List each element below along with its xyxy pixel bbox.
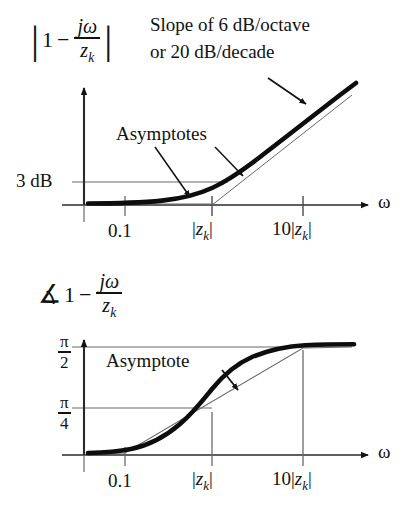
magnitude-fraction-numerator: jω xyxy=(74,16,100,37)
three-db-label: 3 dB xyxy=(16,171,52,190)
phase-ytick-label-pi-over-2: π 2 xyxy=(58,333,71,371)
magnitude-left-bar: | xyxy=(31,22,39,58)
pi-over-2-numerator: π xyxy=(58,333,71,351)
slope-note-leader xyxy=(268,78,306,104)
phase-ytick-label-pi-over-4: π 4 xyxy=(58,394,71,432)
phase-fraction-denominator: zk xyxy=(99,294,119,320)
magnitude-high-asymptote xyxy=(212,95,352,205)
magnitude-xtick-label-1: |zk| xyxy=(192,219,213,243)
pi-over-4-numerator: π xyxy=(58,394,71,412)
phase-y-axis-label: ∡ 1 − jω zk xyxy=(38,271,123,319)
magnitude-y-axis-label: | 1 − jω zk | xyxy=(28,16,115,64)
phase-fraction: jω zk xyxy=(96,271,122,319)
slope-note-line2: or 20 dB/decade xyxy=(150,42,275,61)
asymptotes-leader-left xyxy=(155,147,190,197)
magnitude-right-bar: | xyxy=(104,22,112,58)
magnitude-one: 1 xyxy=(42,29,53,51)
magnitude-fraction: jω zk xyxy=(74,16,100,64)
phase-xtick-label-1: |zk| xyxy=(192,469,213,493)
phase-xtick-label-2: 10|zk| xyxy=(272,469,312,493)
pi-over-4-denominator: 4 xyxy=(58,414,71,432)
figure-line-art xyxy=(0,0,418,526)
magnitude-xtick-label-0: 0.1 xyxy=(108,221,132,240)
asymptotes-note: Asymptotes xyxy=(116,124,207,143)
magnitude-fraction-denominator: zk xyxy=(77,39,97,65)
phase-fraction-numerator: jω xyxy=(96,271,122,292)
angle-symbol: ∡ xyxy=(38,282,61,308)
phase-x-axis-label: ω xyxy=(378,442,391,461)
phase-xtick-label-0: 0.1 xyxy=(108,471,132,490)
magnitude-x-axis-label: ω xyxy=(378,192,391,211)
asymptotes-leader-right xyxy=(215,147,243,176)
magnitude-minus: − xyxy=(57,29,69,51)
pi-over-2-denominator: 2 xyxy=(58,353,71,371)
phase-one: 1 xyxy=(64,284,75,306)
magnitude-plot-group xyxy=(62,78,368,222)
bode-plot-figure: | 1 − jω zk | Slope of 6 dB/octave or 20… xyxy=(0,0,418,526)
slope-note-line1: Slope of 6 dB/octave xyxy=(150,15,310,34)
phase-minus: − xyxy=(79,284,91,306)
magnitude-xtick-label-2: 10|zk| xyxy=(272,219,312,243)
phase-asymptote-note: Asymptote xyxy=(106,351,189,370)
